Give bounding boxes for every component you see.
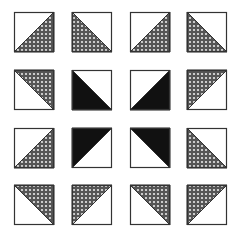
tile-r2-c2	[72, 70, 112, 110]
tile-r3-c4	[187, 128, 227, 168]
tile-r2-c3	[130, 70, 170, 110]
tile-r2-c1	[14, 70, 54, 110]
tiles-group	[14, 12, 227, 225]
tile-r4-c3	[130, 185, 170, 225]
tile-r1-c4	[187, 12, 227, 52]
tile-r4-c2	[72, 185, 112, 225]
tile-r2-c4	[187, 70, 227, 110]
tile-r3-c3	[130, 128, 170, 168]
tile-r1-c2	[72, 12, 112, 52]
tile-r4-c4	[187, 185, 227, 225]
tile-r1-c3	[130, 12, 170, 52]
quilt-pattern-grid	[0, 0, 241, 237]
tile-r3-c1	[14, 128, 54, 168]
tile-r1-c1	[14, 12, 54, 52]
tile-r3-c2	[72, 128, 112, 168]
tile-r4-c1	[14, 185, 54, 225]
